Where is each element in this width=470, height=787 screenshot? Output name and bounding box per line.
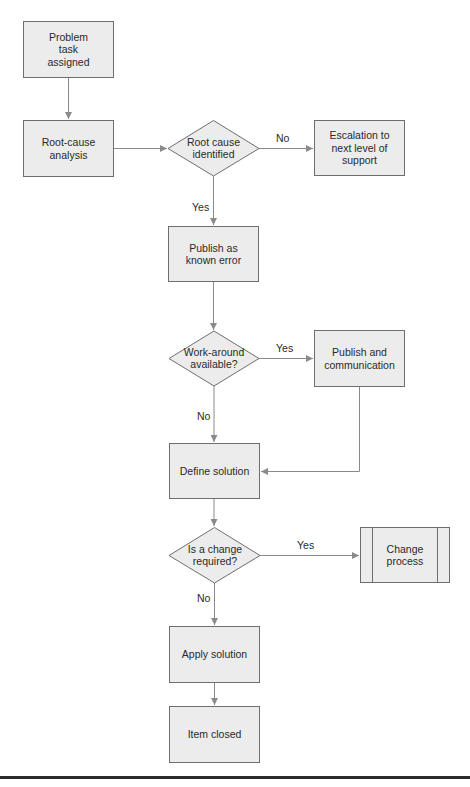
- edge-publish-to-define: [261, 387, 360, 472]
- node-label: Apply solution: [182, 648, 247, 661]
- predefined-process-left-bar: [372, 528, 373, 582]
- node-label: Problem task assigned: [44, 31, 94, 69]
- decision-label: Is a change required?: [187, 543, 243, 568]
- node-label: Item closed: [188, 728, 242, 741]
- node-escalation: Escalation to next level of support: [314, 120, 405, 176]
- node-root-cause-analysis: Root-cause analysis: [23, 120, 114, 177]
- edge-label-root-cause-no: No: [276, 132, 289, 144]
- node-apply-solution: Apply solution: [169, 626, 260, 683]
- edge-label-workaround-no: No: [197, 410, 210, 422]
- node-label: Escalation to next level of support: [319, 129, 400, 167]
- decision-workaround-available: Work-around available?: [179, 340, 249, 376]
- node-item-closed: Item closed: [169, 706, 260, 763]
- decision-label: Work-around available?: [183, 346, 245, 371]
- decision-root-cause-identified: Root cause identified: [178, 130, 249, 166]
- node-label: Publish and communication: [320, 346, 400, 371]
- bottom-rule-divider: [0, 776, 470, 779]
- node-publish-known-error: Publish as known error: [168, 226, 259, 282]
- node-publish-communication: Publish and communication: [314, 330, 405, 387]
- node-problem-task: Problem task assigned: [23, 21, 114, 78]
- node-change-process: Change process: [360, 527, 450, 583]
- node-label: Change process: [382, 543, 428, 568]
- edge-label-workaround-yes: Yes: [276, 342, 293, 354]
- node-label: Publish as known error: [173, 242, 254, 267]
- node-define-solution: Define solution: [169, 443, 260, 499]
- predefined-process-right-bar: [437, 528, 438, 582]
- edge-label-change-yes: Yes: [297, 539, 314, 551]
- edge-label-change-no: No: [197, 592, 210, 604]
- flowchart-canvas: Problem task assigned Root-cause analysi…: [0, 0, 470, 787]
- decision-label: Root cause identified: [184, 136, 244, 161]
- node-label: Root-cause analysis: [39, 136, 99, 161]
- edge-label-root-cause-yes: Yes: [192, 201, 209, 213]
- decision-change-required: Is a change required?: [180, 537, 250, 573]
- node-label: Define solution: [180, 465, 249, 478]
